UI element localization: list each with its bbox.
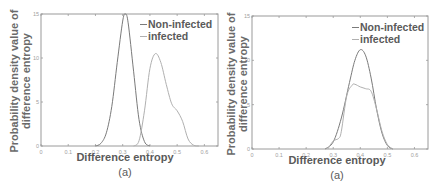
- legend-label: Non-infected: [148, 18, 212, 30]
- series-line-infected: [134, 53, 199, 146]
- legend-swatch-non-infected: [352, 27, 359, 28]
- caption-left: (a): [110, 166, 140, 178]
- legend-item-infected: infected: [352, 33, 424, 45]
- legend-swatch-infected: [140, 36, 147, 37]
- y-axis-label-right: Probability density value of difference …: [225, 9, 251, 159]
- legend-label: Non-infected: [360, 21, 424, 33]
- legend-label: infected: [148, 30, 188, 42]
- y-axis-label-line2: difference entropy: [20, 6, 32, 156]
- x-tick-label: 0.6: [411, 152, 419, 158]
- x-axis-label-left: Difference entropy: [60, 151, 190, 163]
- x-tick-label: 0.6: [201, 149, 209, 155]
- legend-right: Non-infected infected: [352, 21, 424, 45]
- legend-swatch-non-infected: [140, 24, 147, 25]
- series-line-infected: [328, 84, 393, 149]
- legend-item-non-infected: Non-infected: [140, 18, 212, 30]
- chart-panel-right: 00.10.20.30.40.50.6051015 Probability de…: [225, 0, 445, 187]
- y-tick-label: 0: [36, 143, 39, 149]
- caption-right: (a): [322, 169, 352, 181]
- y-axis-label-line1: Probability density value of: [225, 9, 237, 159]
- legend-left: Non-infected infected: [140, 18, 212, 42]
- y-tick-label: 5: [36, 99, 39, 105]
- y-axis-label-line2: difference entropy: [237, 9, 249, 159]
- legend-item-non-infected: Non-infected: [352, 21, 424, 33]
- y-axis-label-left: Probability density value of difference …: [8, 6, 34, 156]
- chart-panel-left: 00.10.20.30.40.50.6051015 Probability de…: [0, 0, 225, 187]
- legend-item-infected: infected: [140, 30, 212, 42]
- legend-label: infected: [360, 33, 400, 45]
- legend-swatch-infected: [352, 39, 359, 40]
- x-tick-label: 0: [39, 149, 42, 155]
- x-axis-label-right: Difference entropy: [272, 154, 402, 166]
- y-axis-label-line1: Probability density value of: [8, 6, 20, 156]
